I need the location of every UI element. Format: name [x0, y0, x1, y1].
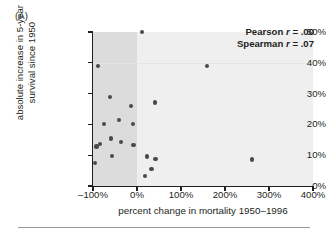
- scatter-point: [102, 122, 106, 126]
- y-axis-tick-label: 30%: [240, 89, 326, 99]
- y-axis-tick: [88, 124, 92, 125]
- scatter-point: [149, 167, 153, 171]
- bottom-rule-divider: [18, 227, 310, 228]
- scatter-point: [119, 140, 123, 144]
- stat-label: Pearson: [245, 26, 286, 37]
- scatter-point: [153, 157, 157, 161]
- plot-area: [93, 32, 313, 186]
- y-axis-tick: [88, 93, 92, 94]
- y-axis-tick: [88, 185, 92, 186]
- y-axis-tick: [88, 62, 92, 63]
- scatter-point: [140, 30, 144, 34]
- stat-value: = .00: [290, 26, 314, 37]
- correlation-annotation: Pearson r = .00Spearman r = .07: [237, 26, 314, 50]
- x-axis-tick-label: 400%: [301, 190, 326, 200]
- y-axis-tick-label: 40%: [240, 58, 326, 68]
- scatter-point: [145, 154, 149, 158]
- stat-spearman: Spearman r = .07: [237, 38, 314, 50]
- x-axis-title: percent change in mortality 1950–1996: [93, 205, 313, 216]
- x-axis-tick-label: 300%: [257, 190, 282, 200]
- y-axis-line: [92, 31, 93, 187]
- x-axis-tick-label: 0%: [130, 190, 144, 200]
- y-axis-title: absolute increase in 5-year survival sin…: [14, 0, 37, 128]
- y-axis-tick: [88, 155, 92, 156]
- negative-shaded-band: [93, 32, 137, 186]
- stat-value: = .07: [290, 38, 314, 49]
- scatter-point: [143, 174, 147, 178]
- scatter-point: [98, 142, 102, 146]
- scatter-point: [205, 64, 209, 68]
- y-axis-tick: [88, 31, 92, 32]
- scatter-point: [109, 136, 113, 140]
- x-axis-tick-label: –100%: [78, 190, 108, 200]
- figure-panel-a: (A) 0%10%20%30%40%50% –100%0%100%200%300…: [0, 0, 326, 234]
- y-axis-tick-label: 20%: [240, 119, 326, 129]
- y-axis-tick-label: 10%: [240, 150, 326, 160]
- x-axis-tick-label: 100%: [169, 190, 194, 200]
- scatter-point: [108, 95, 112, 99]
- x-axis-tick-label: 200%: [213, 190, 238, 200]
- stat-pearson: Pearson r = .00: [237, 26, 314, 38]
- scatter-point: [153, 100, 157, 104]
- stat-label: Spearman: [237, 38, 286, 49]
